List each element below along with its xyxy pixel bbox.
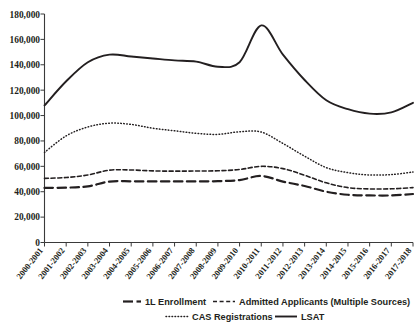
chart-canvas: 180,000 160,000 140,000 120,000 100,000 … — [0, 0, 420, 329]
y-axis-tick-labels: 180,000 160,000 140,000 120,000 100,000 … — [10, 10, 41, 248]
series-line-cas-registrations — [45, 123, 414, 175]
legend-label-admitted-applicants: Admitted Applicants (Multiple Sources) — [239, 297, 410, 307]
y-tick-label: 80,000 — [14, 136, 40, 146]
y-tick-label: 20,000 — [14, 212, 40, 222]
y-tick-label: 60,000 — [14, 162, 40, 172]
y-tick-label: 40,000 — [14, 187, 40, 197]
series-line-lsat — [45, 25, 414, 114]
y-tick-label: 180,000 — [10, 10, 41, 20]
legend-label-1l-enrollment: 1L Enrollment — [145, 297, 206, 307]
y-axis-ticks — [41, 14, 45, 243]
x-axis-ticks — [45, 243, 414, 247]
line-chart: 180,000 160,000 140,000 120,000 100,000 … — [0, 0, 420, 329]
x-axis-tick-labels: 2000-20012001-20022002-20032003-20042004… — [14, 245, 414, 281]
legend-label-lsat: LSAT — [301, 312, 325, 322]
y-tick-label: 140,000 — [10, 60, 41, 70]
series-line-1l-enrollment — [45, 176, 414, 196]
legend-label-cas-registrations: CAS Registrations — [192, 312, 273, 322]
series-line-admitted-applicants — [45, 166, 414, 189]
y-tick-label: 120,000 — [10, 86, 41, 96]
data-series-group — [45, 25, 414, 195]
legend: 1L Enrollment Admitted Applicants (Multi… — [123, 297, 410, 322]
y-tick-label: 100,000 — [10, 111, 41, 121]
y-tick-label: 160,000 — [10, 35, 41, 45]
